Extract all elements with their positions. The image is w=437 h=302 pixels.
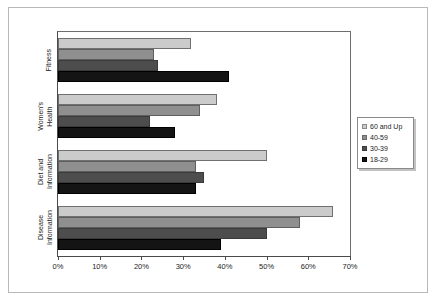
bar[interactable] [58,228,267,239]
x-axis-tick [100,256,101,260]
y-axis-label-text: Diet and Information [37,154,55,189]
bar-slot [58,228,350,239]
x-axis-tick [141,256,142,260]
bar-group-womens-health [58,88,350,144]
x-axis-tick [58,256,59,260]
bar[interactable] [58,116,150,127]
legend-item-30-39[interactable]: 30-39 [362,143,410,154]
bar-slot [58,71,350,82]
y-axis-label-text: Fitness [45,49,54,72]
bar[interactable] [58,105,200,116]
bar[interactable] [58,60,158,71]
y-axis-label-diet-and-information: Diet and Information [14,144,54,200]
x-axis-tick-label: 40% [217,262,232,271]
bar[interactable] [58,206,333,217]
legend-item-40-59[interactable]: 40-59 [362,132,410,143]
bar-slot [58,38,350,49]
chart-canvas: Fitness Women's Health Diet and Informat… [8,7,428,293]
legend-item-18-29[interactable]: 18-29 [362,154,410,165]
bar[interactable] [58,161,196,172]
x-axis-tick [267,256,268,260]
bar-slot [58,60,350,71]
x-axis-tick [308,256,309,260]
y-axis-label-womens-health: Women's Health [14,88,54,144]
chart-legend: 60 and Up 40-59 30-39 18-29 [357,117,414,169]
bar-slot [58,49,350,60]
y-axis-label-fitness: Fitness [14,32,54,88]
y-axis-label-text: Women's Health [37,102,55,131]
bar[interactable] [58,217,300,228]
bar[interactable] [58,49,154,60]
legend-swatch-icon [362,157,367,162]
bar-slot [58,172,350,183]
bar-group-fitness [58,32,350,88]
bar-group-disease-information [58,200,350,256]
bar-slot [58,183,350,194]
legend-item-label: 18-29 [370,156,388,163]
x-axis-tick-label: 10% [92,262,107,271]
x-axis-tick-label: 70% [342,262,357,271]
bar-slot [58,217,350,228]
bar-slot [58,161,350,172]
legend-item-label: 60 and Up [370,123,402,130]
y-axis-label-text: Disease Information [37,210,55,245]
bar[interactable] [58,38,191,49]
bar-slot [58,116,350,127]
x-axis-tick-label: 60% [301,262,316,271]
bar[interactable] [58,94,217,105]
legend-swatch-icon [362,135,367,140]
bar-slot [58,94,350,105]
bar[interactable] [58,150,267,161]
x-axis-tick [183,256,184,260]
x-axis-tick-label: 30% [176,262,191,271]
legend-swatch-icon [362,124,367,129]
bar-slot [58,150,350,161]
bar[interactable] [58,183,196,194]
bar[interactable] [58,127,175,138]
x-axis-tick-label: 20% [134,262,149,271]
bar-slot [58,239,350,250]
plot-area: Fitness Women's Health Diet and Informat… [57,31,351,257]
x-axis-tick-label: 0% [53,262,64,271]
legend-item-label: 40-59 [370,134,388,141]
bar-slot [58,127,350,138]
x-axis-tick-label: 50% [259,262,274,271]
legend-item-60-and-up[interactable]: 60 and Up [362,121,410,132]
bar-slot [58,105,350,116]
y-axis-label-disease-information: Disease Information [14,200,54,256]
legend-swatch-icon [362,146,367,151]
bar-slot [58,206,350,217]
legend-item-label: 30-39 [370,145,388,152]
bar[interactable] [58,239,221,250]
bar-group-diet-and-information [58,144,350,200]
bar[interactable] [58,71,229,82]
x-axis-tick [225,256,226,260]
x-axis-tick [350,256,351,260]
bar[interactable] [58,172,204,183]
